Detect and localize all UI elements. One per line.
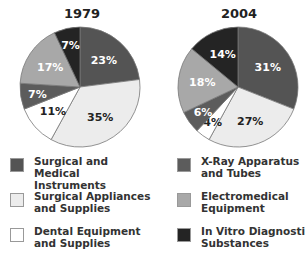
slice-label: 11% <box>40 105 66 118</box>
legend-swatch <box>177 228 191 242</box>
slice-label: 7% <box>28 88 47 101</box>
legend-label: X-Ray Apparatus and Tubes <box>201 155 305 179</box>
slice-label: 23% <box>91 54 117 67</box>
legend-label: In Vitro Diagnostic Substances <box>201 225 305 249</box>
slice-label: 27% <box>237 115 263 128</box>
slice-label: 6% <box>194 106 213 119</box>
slice-label: 14% <box>210 48 236 61</box>
legend-label: Surgical Appliances and Supplies <box>34 190 154 214</box>
slice-label: 18% <box>189 76 215 89</box>
slice-label: 35% <box>87 111 113 124</box>
legend-swatch <box>10 158 24 172</box>
slice-label: 7% <box>61 39 80 52</box>
pie-charts: 23%35%11%7%17%7%31%27%4%6%18%14% <box>0 0 305 150</box>
legend-swatch <box>10 228 24 242</box>
legend-item: Dental Equipment and Supplies <box>10 225 154 249</box>
slice-label: 17% <box>37 61 63 74</box>
legend-item: In Vitro Diagnostic Substances <box>177 225 305 249</box>
legend-item: Surgical Appliances and Supplies <box>10 190 154 214</box>
legend-swatch <box>177 193 191 207</box>
legend-label: Electromedical Equipment <box>201 190 305 214</box>
legend-item: Surgical and Medical Instruments <box>10 155 154 191</box>
legend-item: X-Ray Apparatus and Tubes <box>177 155 305 179</box>
legend-item: Electromedical Equipment <box>177 190 305 214</box>
legend-swatch <box>10 193 24 207</box>
legend-label: Surgical and Medical Instruments <box>34 155 154 191</box>
slice-label: 31% <box>255 61 281 74</box>
legend-swatch <box>177 158 191 172</box>
legend-label: Dental Equipment and Supplies <box>34 225 154 249</box>
